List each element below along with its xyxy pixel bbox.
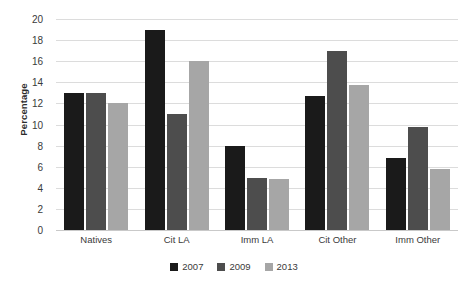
gridline-0 [56,230,458,231]
bar [349,85,369,230]
y-tick-label-18: 18 [2,35,50,46]
legend-item[interactable]: 2007 [170,262,203,272]
bar [327,51,347,230]
category-label: Imm Other [395,234,440,245]
y-tick-label-0: 0 [2,225,50,236]
y-tick-label-16: 16 [2,56,50,67]
bar [167,114,187,230]
bar-group [145,19,209,230]
bar [386,158,406,230]
bar [430,169,450,230]
y-tick-label-4: 4 [2,182,50,193]
bar-group [225,19,289,230]
legend-item[interactable]: 2009 [217,262,250,272]
x-axis-category-labels: NativesCit LAImm LACit OtherImm Other [56,234,458,250]
y-tick-label-6: 6 [2,161,50,172]
y-axis-tick-labels: 02468101214161820 [0,19,50,230]
legend-label: 2013 [277,262,298,272]
bar-chart: Percentage 02468101214161820 NativesCit … [0,0,468,290]
y-tick-label-20: 20 [2,14,50,25]
bar [108,103,128,230]
legend-swatch-icon [170,263,178,271]
legend-swatch-icon [217,263,225,271]
chart-legend: 200720092013 [0,262,468,272]
category-label: Natives [80,234,112,245]
y-tick-label-14: 14 [2,77,50,88]
plot-area [56,19,458,230]
bars-layer [56,19,458,230]
bar [145,30,165,230]
category-label: Cit LA [164,234,190,245]
bar [189,61,209,230]
bar [269,179,289,230]
y-tick-label-12: 12 [2,98,50,109]
category-label: Cit Other [318,234,356,245]
legend-item[interactable]: 2013 [265,262,298,272]
legend-swatch-icon [265,263,273,271]
legend-label: 2009 [229,262,250,272]
bar [86,93,106,230]
bar [247,178,267,230]
bar [225,146,245,230]
bar-group [305,19,369,230]
bar [64,93,84,230]
y-tick-label-2: 2 [2,203,50,214]
legend-label: 2007 [182,262,203,272]
bar [305,96,325,230]
category-label: Imm LA [241,234,274,245]
y-tick-label-10: 10 [2,119,50,130]
bar-group [386,19,450,230]
bar-group [64,19,128,230]
bar [408,127,428,230]
y-tick-label-8: 8 [2,140,50,151]
